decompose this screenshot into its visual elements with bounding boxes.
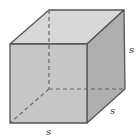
label-depth-edge: s bbox=[110, 105, 115, 116]
label-bottom-edge: s bbox=[46, 126, 51, 137]
cube-diagram: s s s bbox=[0, 0, 137, 138]
label-height-edge: s bbox=[129, 44, 134, 55]
